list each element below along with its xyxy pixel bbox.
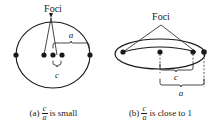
center-dot-b bbox=[157, 49, 162, 54]
caption-b-fraction: c a bbox=[141, 105, 147, 122]
brace-a-semi-major bbox=[53, 41, 89, 48]
focal-ray-right-a bbox=[51, 18, 57, 55]
left-focus-dot-a bbox=[41, 52, 46, 57]
foci-label-b: Foci bbox=[152, 11, 170, 22]
right-focus-dot-a bbox=[59, 52, 64, 57]
caption-a: (a) c a is small bbox=[0, 105, 107, 122]
panel-b-flattened: Foci c a (b) c a is close to 1 bbox=[107, 0, 214, 126]
center-dot-a bbox=[50, 52, 55, 57]
label-c-focal-distance: c bbox=[55, 70, 59, 80]
caption-b-denominator: a bbox=[141, 114, 147, 122]
caption-b-marker: (b) bbox=[129, 109, 140, 118]
caption-b-text: is close to 1 bbox=[149, 109, 192, 118]
caption-a-numerator: c bbox=[42, 105, 48, 113]
foci-label-a: Foci bbox=[44, 3, 62, 14]
left-vertex-dot-a bbox=[13, 52, 18, 57]
label-a-semi-major-b: a bbox=[179, 88, 184, 98]
brace-c-focal-distance bbox=[53, 61, 61, 67]
caption-a-marker: (a) bbox=[30, 109, 40, 118]
caption-a-text: is small bbox=[50, 109, 78, 118]
left-focus-dot-b bbox=[120, 49, 125, 54]
label-c-focal-distance-b: c bbox=[174, 72, 178, 82]
caption-b: (b) c a is close to 1 bbox=[107, 105, 214, 122]
caption-b-numerator: c bbox=[142, 105, 148, 113]
right-focus-dot-b bbox=[190, 49, 195, 54]
label-a-semi-major: a bbox=[69, 30, 74, 40]
caption-a-fraction: c a bbox=[42, 105, 48, 122]
figure-root: Foci a c (a) c a is small bbox=[0, 0, 214, 126]
panel-a-near-circular: Foci a c (a) c a is small bbox=[0, 0, 107, 126]
focal-ray-left-a bbox=[44, 18, 51, 55]
right-vertex-dot-b bbox=[201, 49, 207, 55]
brace-a-semi-major-b bbox=[160, 79, 204, 87]
caption-a-denominator: a bbox=[42, 114, 48, 122]
right-vertex-dot-a bbox=[87, 52, 92, 57]
